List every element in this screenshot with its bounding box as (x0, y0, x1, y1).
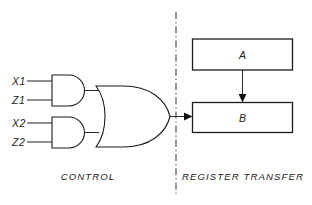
input-label-x1: X1 (11, 75, 26, 87)
arrowhead-a-to-b (239, 94, 247, 103)
register-a-label: A (238, 49, 246, 61)
input-label-z2: Z2 (11, 136, 25, 148)
input-label-z1: Z1 (11, 94, 25, 106)
section-label-register-transfer: REGISTER TRANSFER (182, 171, 304, 182)
arrowhead-or-to-register-b (184, 113, 193, 121)
register-b-label: B (239, 112, 246, 124)
and-gate-1-shape (52, 75, 85, 106)
diagram-canvas: X1 Z1 X2 Z2 A B CONTROL REGISTER TRANSFE… (0, 0, 312, 205)
input-label-x2: X2 (11, 117, 26, 129)
section-label-control: CONTROL (61, 171, 116, 182)
and-gate-2-shape (52, 117, 84, 148)
logic-diagram: X1 Z1 X2 Z2 A B CONTROL REGISTER TRANSFE… (0, 0, 312, 205)
or-gate-shape (96, 86, 170, 147)
